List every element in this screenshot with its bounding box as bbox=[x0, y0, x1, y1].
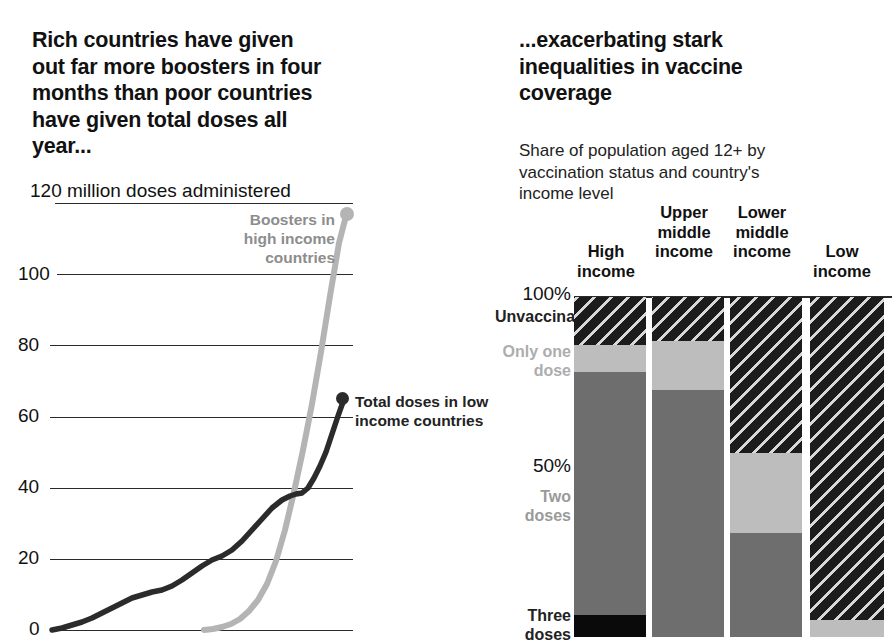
stacked-bar-chart: High income Upper middle income Lower mi… bbox=[495, 0, 892, 637]
bar-segment-one-dose bbox=[730, 453, 802, 533]
series-boosters-high-income-line bbox=[204, 216, 346, 630]
segment-label-three-doses: Three doses bbox=[495, 606, 571, 644]
bar-high-income bbox=[574, 297, 646, 637]
segment-label-unvaccinated: Unvaccinated bbox=[495, 307, 571, 326]
bar-segment-one-dose bbox=[810, 620, 884, 637]
y-tick-100-percent: 100% bbox=[495, 283, 571, 305]
series-label-total-doses-low-income: Total doses in low income countries bbox=[355, 392, 490, 430]
left-chart-panel: Rich countries have given out far more b… bbox=[0, 0, 495, 637]
line-chart: 120 million doses administered 100 80 60… bbox=[0, 0, 495, 637]
bar-upper-middle-income bbox=[652, 297, 724, 637]
line-series-svg bbox=[0, 0, 495, 637]
bar-segment-two-doses bbox=[574, 372, 646, 615]
bar-segment-unvaccinated bbox=[652, 297, 724, 341]
bar-segment-unvaccinated bbox=[810, 297, 884, 620]
y-tick-50-percent: 50% bbox=[495, 455, 571, 477]
series-label-boosters-high-income: Boosters in high income countries bbox=[215, 210, 335, 267]
column-header-low-income: Low income bbox=[805, 242, 879, 281]
series-total-doses-low-income-line bbox=[52, 402, 343, 630]
bar-low-income bbox=[810, 297, 884, 637]
segment-label-two-doses: Two doses bbox=[495, 487, 571, 525]
bar-segment-three-doses bbox=[574, 615, 646, 637]
bar-lower-middle-income bbox=[730, 297, 802, 637]
column-header-upper-middle-income: Upper middle income bbox=[647, 203, 721, 262]
bar-segment-unvaccinated bbox=[574, 297, 646, 345]
segment-label-one-dose: Only one dose bbox=[495, 342, 571, 380]
bar-segment-one-dose bbox=[652, 341, 724, 390]
total-doses-end-marker-dot bbox=[336, 392, 349, 405]
right-chart-panel: ...exacerbating stark inequalities in va… bbox=[495, 0, 892, 637]
bar-segment-one-dose bbox=[574, 345, 646, 372]
bar-segment-unvaccinated bbox=[730, 297, 802, 453]
boosters-end-marker-dot bbox=[340, 207, 354, 221]
bar-segment-two-doses bbox=[652, 390, 724, 637]
column-header-high-income: High income bbox=[569, 242, 643, 281]
bar-segment-two-doses bbox=[730, 533, 802, 637]
column-header-lower-middle-income: Lower middle income bbox=[725, 203, 799, 262]
